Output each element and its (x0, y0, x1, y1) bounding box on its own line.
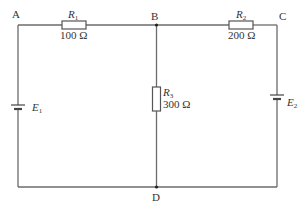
r1-symbol: R1 (68, 9, 78, 22)
node-label-c: C (279, 11, 286, 22)
e2-label: E2 (287, 97, 297, 110)
e1-label: E1 (32, 102, 42, 115)
r2-symbol: R2 (236, 9, 246, 22)
node-label-d: D (152, 192, 160, 203)
battery-e2-icon (270, 95, 284, 99)
junction-d (155, 185, 158, 188)
resistor-r1 (62, 21, 86, 29)
r2-value: 200 Ω (228, 30, 255, 41)
battery-e1-icon (11, 105, 25, 109)
r1-value: 100 Ω (60, 30, 87, 41)
junction-b (155, 23, 158, 26)
node-label-a: A (12, 9, 20, 20)
resistor-r2 (229, 21, 253, 29)
r3-value: 300 Ω (163, 99, 190, 110)
node-label-b: B (151, 11, 158, 22)
resistor-r3 (153, 87, 161, 111)
